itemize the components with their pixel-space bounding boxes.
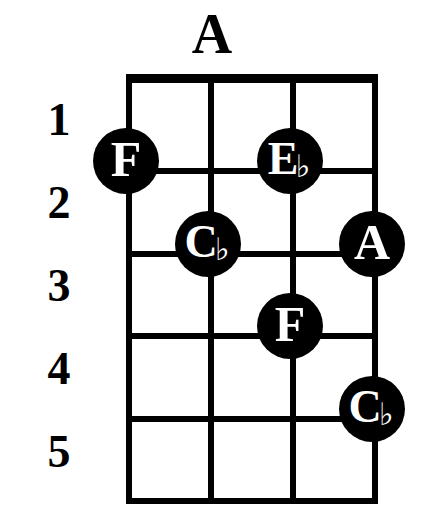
- note-label: C♭: [185, 219, 232, 265]
- chord-name-title: A: [0, 4, 425, 64]
- fret-number-4: 4: [30, 327, 88, 410]
- flat-sign-icon: ♭: [379, 397, 393, 432]
- note-marker-c-flat-s4-f4[interactable]: C♭: [339, 376, 405, 442]
- fret-number-5: 5: [30, 410, 88, 493]
- note-label: F: [111, 134, 142, 184]
- chord-diagram: A 1 2 3 4 5 FE♭C♭AFC♭: [0, 0, 426, 519]
- note-marker-e-flat-s3-f1[interactable]: E♭: [257, 128, 323, 194]
- note-marker-a-s4-f2[interactable]: A: [339, 211, 405, 277]
- flat-sign-icon: ♭: [215, 232, 229, 267]
- note-label: C♭: [349, 384, 396, 430]
- note-label: E♭: [268, 136, 312, 182]
- note-marker-c-flat-s2-f2[interactable]: C♭: [175, 211, 241, 277]
- fret-number-2: 2: [30, 161, 88, 244]
- fretboard-grid: FE♭C♭AFC♭: [126, 74, 378, 506]
- fret-number-column: 1 2 3 4 5: [30, 78, 88, 502]
- fret-number-1: 1: [30, 78, 88, 161]
- note-marker-layer: FE♭C♭AFC♭: [126, 74, 378, 506]
- note-label: F: [275, 299, 306, 349]
- fret-number-3: 3: [30, 244, 88, 327]
- flat-sign-icon: ♭: [296, 149, 310, 184]
- note-marker-f-s1-f1[interactable]: F: [93, 128, 159, 194]
- note-marker-f-s3-f3[interactable]: F: [257, 293, 323, 359]
- note-label: A: [354, 217, 390, 267]
